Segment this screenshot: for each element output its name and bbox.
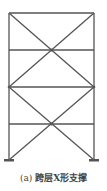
joint-node bbox=[8, 86, 11, 89]
figure-caption: (a) 跨层X形支撑 bbox=[0, 171, 107, 184]
caption-label: (a) bbox=[20, 173, 32, 183]
caption-text: 跨层X形支撑 bbox=[35, 173, 87, 183]
right-support-icon bbox=[89, 159, 99, 162]
joint-node bbox=[50, 49, 53, 52]
left-support-icon bbox=[4, 159, 14, 162]
braced-frame-diagram bbox=[0, 0, 107, 191]
joint-node bbox=[50, 123, 53, 126]
joint-node bbox=[93, 86, 96, 89]
